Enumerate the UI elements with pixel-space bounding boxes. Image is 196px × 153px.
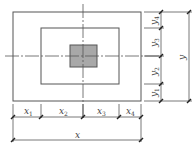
label-x3: x3 [97,106,106,117]
label-y3: y3 [149,38,160,48]
label-y2: y2 [149,67,160,77]
label-y1: y1 [149,88,160,98]
label-x-total: x [75,130,80,140]
label-x4: x4 [126,106,135,117]
dimension-diagram: x1 x2 x3 x4 x y4 y3 y2 y1 y [0,0,196,153]
label-x2: x2 [59,106,68,117]
label-y4: y4 [149,16,160,26]
label-y-total: y [177,54,187,61]
label-x1: x1 [24,106,33,117]
